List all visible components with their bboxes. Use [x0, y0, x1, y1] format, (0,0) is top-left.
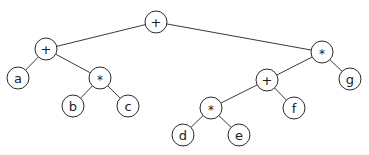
tree-edge	[330, 60, 342, 72]
tree-node: +	[145, 11, 167, 33]
tree-nodes: ++a*bc*+g*fde	[7, 11, 361, 146]
tree-node: f	[283, 97, 305, 119]
tree-node: a	[7, 67, 29, 89]
node-label: *	[208, 103, 214, 117]
tree-edge	[221, 85, 257, 103]
expression-tree-diagram: ++a*bc*+g*fde	[0, 0, 369, 155]
tree-node: *	[311, 41, 333, 63]
tree-edge	[57, 25, 146, 47]
tree-edge	[191, 116, 203, 128]
node-label: *	[319, 47, 325, 61]
tree-node: g	[339, 68, 361, 90]
node-label: +	[41, 42, 52, 57]
node-label: c	[124, 99, 131, 114]
tree-node: *	[200, 97, 222, 119]
node-label: f	[292, 101, 297, 116]
tree-edge	[275, 88, 287, 100]
tree-edge	[26, 57, 39, 70]
tree-node: d	[172, 124, 194, 146]
tree-edge	[81, 86, 93, 98]
tree-node: *	[89, 67, 111, 89]
tree-edge	[56, 54, 91, 73]
tree-node: b	[62, 95, 84, 117]
tree-edge	[167, 24, 311, 50]
tree-node: +	[256, 69, 278, 91]
node-label: *	[97, 73, 103, 87]
tree-node: +	[35, 38, 57, 60]
tree-node: c	[117, 95, 139, 117]
node-label: a	[14, 71, 22, 86]
node-label: +	[151, 15, 162, 30]
node-label: b	[69, 99, 77, 114]
node-label: d	[179, 128, 187, 143]
node-label: e	[235, 128, 243, 143]
tree-edge	[219, 116, 231, 128]
node-label: g	[346, 72, 354, 87]
tree-node: e	[228, 124, 250, 146]
tree-edge	[108, 86, 120, 98]
node-label: +	[262, 73, 273, 88]
tree-edge	[277, 57, 312, 75]
